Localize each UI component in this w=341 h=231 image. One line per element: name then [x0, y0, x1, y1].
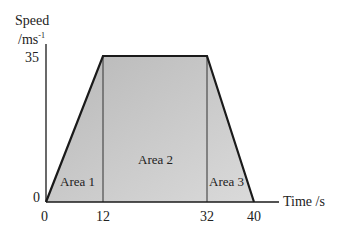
x-tick-40: 40 [247, 210, 261, 224]
y-axis-label-line2: /ms-1 [18, 32, 45, 47]
x-tick-0: 0 [41, 210, 48, 224]
x-tick-12: 12 [96, 210, 110, 224]
y-axis-label-line1: Speed [15, 14, 49, 28]
area-3-label: Area 3 [209, 175, 244, 188]
x-axis-label: Time /s [283, 195, 325, 209]
y-tick-0: 0 [33, 191, 40, 205]
area-1-label: Area 1 [60, 175, 95, 188]
y-tick-35: 35 [25, 51, 39, 65]
area-2-label: Area 2 [138, 153, 173, 166]
x-tick-32: 32 [200, 210, 214, 224]
